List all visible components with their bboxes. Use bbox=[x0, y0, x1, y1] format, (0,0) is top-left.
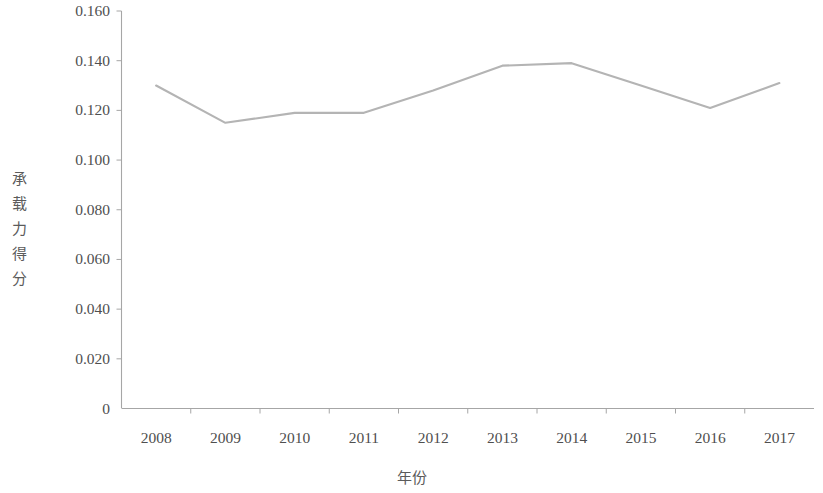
plot-area bbox=[0, 0, 823, 493]
x-axis-tick-label: 2015 bbox=[601, 429, 681, 447]
data-series-line bbox=[156, 63, 779, 123]
line-chart: 承 载 力 得 分 00.0200.0400.0600.0800.1000.12… bbox=[0, 0, 823, 493]
x-axis-tick-label: 2010 bbox=[255, 429, 335, 447]
x-axis-tick-labels: 2008200920102011201220132014201520162017 bbox=[0, 429, 823, 453]
x-axis-tick-label: 2011 bbox=[324, 429, 404, 447]
axis-lines bbox=[122, 11, 815, 409]
x-axis-tick-label: 2014 bbox=[532, 429, 612, 447]
x-axis-tick-label: 2009 bbox=[185, 429, 265, 447]
x-axis-tick-label: 2008 bbox=[116, 429, 196, 447]
x-axis-tick-label: 2017 bbox=[739, 429, 819, 447]
x-axis-tick-label: 2012 bbox=[393, 429, 473, 447]
x-axis-title: 年份 bbox=[0, 466, 823, 487]
y-axis-ticks bbox=[117, 11, 122, 359]
x-axis-ticks bbox=[191, 409, 745, 414]
x-axis-tick-label: 2013 bbox=[462, 429, 542, 447]
x-axis-tick-label: 2016 bbox=[670, 429, 750, 447]
